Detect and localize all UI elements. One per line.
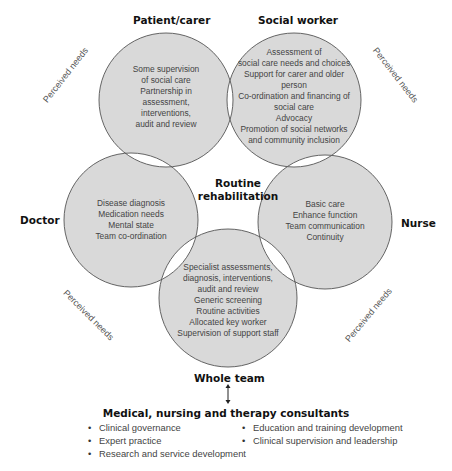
list-item: social care <box>229 102 359 113</box>
list-item: assessment, <box>106 97 226 108</box>
center-label-line-1: Routine <box>188 177 288 190</box>
list-item: Clinical governance <box>86 421 246 434</box>
list-item: Assessment of <box>229 47 359 58</box>
list-item: Generic screening <box>168 295 288 306</box>
list-item: interventions, <box>106 108 226 119</box>
list-item: Allocated key worker <box>168 317 288 328</box>
list-item: Expert practice <box>86 434 246 447</box>
role-label-doctor: Doctor <box>20 214 60 226</box>
list-item: of social care <box>106 75 226 86</box>
circle-text-patient-carer: Some supervision of social care Partners… <box>106 64 226 130</box>
list-item: Clinical supervision and leadership <box>240 434 403 447</box>
list-item: audit and review <box>106 119 226 130</box>
list-item: diagnosis, interventions, <box>168 273 288 284</box>
double-arrow-icon <box>224 384 232 404</box>
list-item: audit and review <box>168 284 288 295</box>
list-item: Team communication <box>270 221 380 232</box>
list-item: Some supervision <box>106 64 226 75</box>
list-item: Specialist assessments, <box>168 262 288 273</box>
role-label-patient-carer: Patient/carer <box>133 14 210 26</box>
list-item: person <box>229 80 359 91</box>
list-item: Education and training development <box>240 421 403 434</box>
role-label-social-worker: Social worker <box>258 14 338 26</box>
circle-text-nurse: Basic care Enhance function Team communi… <box>270 199 380 243</box>
list-item: and community inclusion <box>229 135 359 146</box>
circle-text-doctor: Disease diagnosis Medication needs Menta… <box>81 198 181 242</box>
consultants-title: Medical, nursing and therapy consultants <box>0 407 452 419</box>
list-item: Disease diagnosis <box>81 198 181 209</box>
role-label-nurse: Nurse <box>401 217 436 229</box>
consultants-list-right: Education and training development Clini… <box>240 421 403 447</box>
list-item: Advocacy <box>229 113 359 124</box>
list-item: Mental state <box>81 220 181 231</box>
list-item: Supervision of support staff <box>168 328 288 339</box>
list-item: Partnership in <box>106 86 226 97</box>
list-item: Enhance function <box>270 210 380 221</box>
list-item: Support for carer and older <box>229 69 359 80</box>
list-item: Research and service development <box>86 447 246 460</box>
list-item: Basic care <box>270 199 380 210</box>
list-item: Medication needs <box>81 209 181 220</box>
list-item: Team co-ordination <box>81 231 181 242</box>
list-item: Co-ordination and financing of <box>229 91 359 102</box>
consultants-list-left: Clinical governance Expert practice Rese… <box>86 421 246 460</box>
list-item: Promotion of social networks <box>229 124 359 135</box>
circle-text-whole-team: Specialist assessments, diagnosis, inter… <box>168 262 288 339</box>
list-item: Routine activities <box>168 306 288 317</box>
list-item: social care needs and choices <box>229 58 359 69</box>
circle-text-social-worker: Assessment of social care needs and choi… <box>229 47 359 146</box>
role-label-whole-team: Whole team <box>194 372 265 384</box>
list-item: Continuity <box>270 232 380 243</box>
